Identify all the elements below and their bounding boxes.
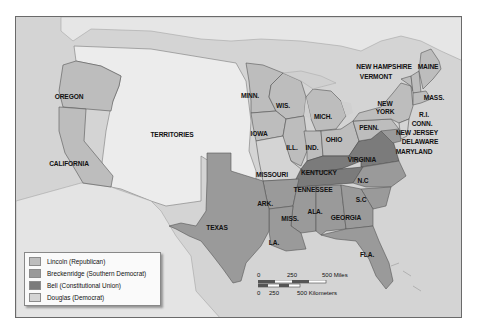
label-miss: MISS. (281, 216, 298, 223)
legend-swatch-douglas (29, 293, 41, 302)
legend-label: Lincoln (Republican) (47, 258, 105, 265)
label-delaware: DELAWARE (402, 139, 439, 146)
scale-miles-500: 500 Miles (322, 272, 348, 278)
label-kentucky: KENTUCKY (301, 170, 337, 177)
label-new-york-2: YORK (376, 109, 395, 116)
legend-swatch-bell (29, 281, 41, 290)
label-sc: S.C (356, 197, 367, 204)
label-ohio: OHIO (326, 137, 342, 144)
label-new-york-1: NEW (377, 101, 392, 108)
label-iowa: IOWA (250, 131, 267, 138)
label-vermont: VERMONT (360, 74, 392, 81)
label-tennessee: TENNESSEE (293, 187, 332, 194)
scale-bars-graphic (258, 280, 328, 290)
legend-swatch-breckenridge (29, 269, 41, 278)
scale-miles-250: 250 (287, 272, 297, 278)
legend-item-bell: Bell (Constitutional Union) (29, 280, 121, 290)
label-maine: MAINE (418, 64, 439, 71)
label-maryland: MARYLAND (396, 149, 433, 156)
label-conn: CONN. (412, 121, 433, 128)
label-territories: TERRITORIES (150, 132, 193, 139)
legend-item-lincoln: Lincoln (Republican) (29, 256, 105, 266)
legend-label: Breckenridge (Southern Democrat) (47, 270, 146, 277)
legend-label: Douglas (Democrat) (47, 294, 104, 301)
label-la: LA. (269, 240, 279, 247)
scale-km-500: 500 Kilometers (297, 290, 337, 296)
label-ind: IND. (306, 145, 319, 152)
label-missouri: MISSOURI (256, 172, 288, 179)
label-penn: PENN. (359, 125, 379, 132)
label-ark: ARK. (257, 201, 273, 208)
map-legend: Lincoln (Republican) Breckenridge (South… (24, 252, 161, 306)
label-mich: MICH. (314, 114, 332, 121)
legend-item-breckenridge: Breckenridge (Southern Democrat) (29, 268, 146, 278)
legend-item-douglas: Douglas (Democrat) (29, 292, 104, 302)
label-virginia: VIRGINIA (348, 157, 377, 164)
label-oregon: OREGON (55, 94, 84, 101)
label-ri: R.I. (419, 112, 429, 119)
scale-miles-0: 0 (257, 272, 260, 278)
label-california: CALIFORNIA (49, 161, 89, 168)
scale-km-250: 250 (269, 290, 279, 296)
scale-km-0: 0 (257, 290, 260, 296)
legend-swatch-lincoln (29, 257, 41, 266)
label-nc: N.C (357, 178, 368, 185)
label-minn: MINN. (241, 93, 259, 100)
label-texas: TEXAS (206, 225, 227, 232)
label-mass: MASS. (424, 95, 444, 102)
label-ill: ILL. (286, 145, 297, 152)
label-new-jersey: NEW JERSEY (396, 130, 438, 137)
scale-bar: 0 250 500 Miles 0 250 500 Kilometers (257, 272, 367, 306)
label-ala: ALA. (308, 209, 323, 216)
label-fla: FLA. (360, 252, 374, 259)
label-new-hampshire: NEW HAMPSHIRE (356, 64, 411, 71)
legend-label: Bell (Constitutional Union) (47, 282, 121, 289)
label-georgia: GEORGIA (331, 215, 361, 222)
label-wis: WIS. (276, 103, 290, 110)
